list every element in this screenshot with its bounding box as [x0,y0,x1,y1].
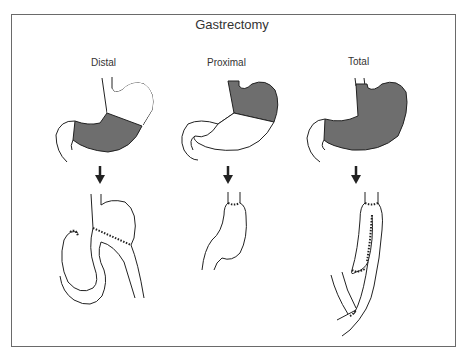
arrow-down-icon [95,166,105,184]
distal-stomach-before [56,77,153,162]
arrow-down-icon [223,166,233,184]
gastrectomy-diagram [0,0,464,356]
distal-reconstruction [60,194,144,304]
total-reconstruction [331,192,383,336]
arrow-down-icon [351,166,361,184]
proximal-stomach-before [182,81,278,160]
proximal-reconstruction [202,192,246,270]
total-stomach-before [307,78,407,162]
